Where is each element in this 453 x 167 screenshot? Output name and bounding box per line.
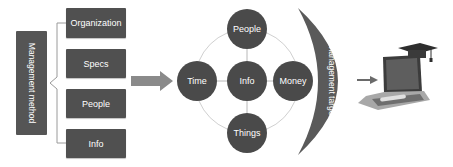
- element-time: Time: [177, 61, 217, 101]
- method-item-organization: Organization: [66, 8, 126, 38]
- method-item-people: People: [66, 89, 126, 118]
- element-people: People: [227, 9, 267, 49]
- element-money: Money: [273, 61, 313, 101]
- method-item-info: Info: [66, 129, 126, 158]
- management-method-box: Management method: [16, 31, 47, 135]
- management-target-label: Management target: [327, 44, 337, 118]
- laptop-icon: [358, 55, 430, 110]
- element-info: Info: [227, 61, 267, 101]
- flow-arrow: [131, 71, 173, 91]
- result-arrow: [357, 76, 378, 84]
- management-method-label: Management method: [27, 43, 37, 123]
- element-things: Things: [227, 113, 267, 153]
- method-item-specs: Specs: [66, 49, 126, 78]
- bracket-connector: [50, 23, 66, 143]
